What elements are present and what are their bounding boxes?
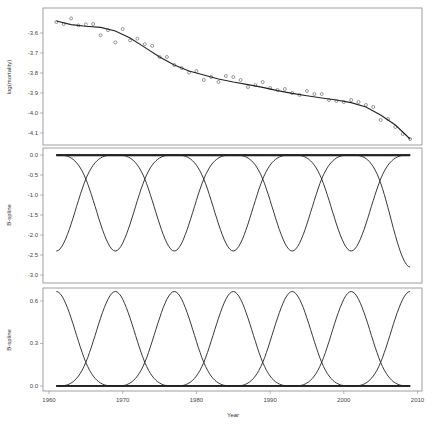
y-tick-label: -3.6 <box>28 30 39 36</box>
y-axis-title-top: log(mortality) <box>6 60 12 95</box>
data-point <box>224 75 227 78</box>
panel-scaled-bsplines: 0.0-0.5-1.0-1.5-2.0-2.5-3.0 <box>28 148 422 283</box>
data-point <box>313 93 316 96</box>
data-point <box>121 28 124 31</box>
data-point <box>379 119 382 122</box>
bspline-curve-5 <box>56 155 410 251</box>
data-point <box>261 81 264 84</box>
y-tick-label: -3.7 <box>28 50 39 56</box>
bspline-curve-3 <box>56 292 410 387</box>
y-tick-label: -1.0 <box>28 192 39 198</box>
data-point <box>364 104 367 107</box>
y-tick-label: 0.0 <box>30 383 39 389</box>
data-point <box>217 81 220 84</box>
y-tick-label: 0.0 <box>30 152 39 158</box>
y-tick-label: 0.6 <box>30 298 39 304</box>
middle-panel-frame <box>43 148 422 283</box>
y-tick-label: -4.0 <box>28 110 39 116</box>
data-point <box>92 23 95 26</box>
bspline-curve-2 <box>56 155 410 251</box>
data-point <box>305 90 308 93</box>
data-point <box>143 43 146 46</box>
data-point <box>84 23 87 26</box>
bspline-curve-7 <box>56 292 410 387</box>
bspline-curve-1 <box>56 155 410 251</box>
y-axis-title-middle: B-spline <box>6 204 12 226</box>
bspline-curve-1 <box>56 292 410 387</box>
data-point <box>165 56 168 59</box>
x-tick-label: 1980 <box>190 397 204 403</box>
bspline-curve-4 <box>56 155 410 251</box>
y-axis-title-bottom: B-spline <box>6 329 12 351</box>
data-point <box>283 88 286 91</box>
bspline-curve-5 <box>56 292 410 387</box>
y-tick-label: -3.8 <box>28 70 39 76</box>
bspline-curve-7 <box>56 155 410 267</box>
fitted-curve <box>56 21 410 139</box>
bspline-curve-2 <box>56 292 410 387</box>
y-tick-label: -3.0 <box>28 272 39 278</box>
data-point <box>136 37 139 40</box>
x-tick-label: 1960 <box>42 397 56 403</box>
y-tick-label: -1.5 <box>28 212 39 218</box>
panel-log-mortality: -3.6-3.7-3.8-3.9-4.0-4.1 <box>28 8 422 145</box>
data-point <box>195 70 198 73</box>
y-tick-label: -0.5 <box>28 172 39 178</box>
y-tick-label: -3.9 <box>28 90 39 96</box>
bspline-curve-4 <box>56 292 410 387</box>
x-tick-label: 2000 <box>337 397 351 403</box>
data-point <box>202 79 205 82</box>
figure: -3.6-3.7-3.8-3.9-4.0-4.1 0.0-0.5-1.0-1.5… <box>0 0 435 430</box>
bspline-curve-6 <box>56 155 410 251</box>
panel-bsplines: 0.00.30.6196019701980199020002010 <box>30 288 425 403</box>
data-point <box>99 34 102 37</box>
x-tick-label: 1970 <box>116 397 130 403</box>
top-panel-frame <box>43 8 422 145</box>
bottom-panel-frame <box>43 288 422 391</box>
data-point <box>151 44 154 47</box>
y-tick-label: -4.1 <box>28 130 39 136</box>
x-tick-label: 1990 <box>263 397 277 403</box>
data-point <box>350 99 353 102</box>
data-point <box>372 106 375 109</box>
data-point <box>129 39 132 42</box>
y-tick-label: -2.5 <box>28 252 39 258</box>
bspline-curve-3 <box>56 155 410 251</box>
bspline-curve-6 <box>56 292 410 387</box>
data-point <box>246 86 249 89</box>
data-point <box>320 93 323 96</box>
y-tick-label: 0.3 <box>30 340 39 346</box>
data-point <box>357 101 360 104</box>
data-point <box>232 76 235 79</box>
y-tick-label: -2.0 <box>28 232 39 238</box>
data-point <box>114 41 117 44</box>
x-tick-label: 2010 <box>411 397 425 403</box>
x-axis-title: Year <box>227 412 239 418</box>
data-point <box>70 17 73 20</box>
data-point <box>239 79 242 82</box>
